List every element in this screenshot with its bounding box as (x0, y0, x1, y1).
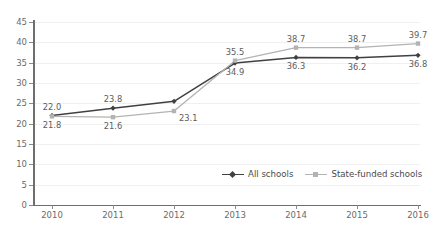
data-point (355, 45, 359, 49)
data-label: 38.7 (281, 34, 311, 44)
data-label: 38.7 (342, 34, 372, 44)
data-label: 22.0 (37, 102, 67, 112)
data-point (111, 115, 115, 119)
data-label: 36.8 (403, 59, 433, 69)
data-point (416, 41, 420, 45)
legend-label-all-schools: All schools (248, 169, 293, 179)
data-label: 21.6 (98, 121, 128, 131)
chart-legend: All schools State-funded schools (222, 169, 422, 179)
data-label: 34.9 (220, 67, 250, 77)
data-label: 36.2 (342, 62, 372, 72)
data-label: 36.3 (281, 61, 311, 71)
data-label: 23.1 (179, 113, 209, 123)
data-point (293, 55, 298, 60)
data-point (50, 114, 54, 118)
data-point (172, 109, 176, 113)
data-label: 35.5 (220, 47, 250, 57)
data-label: 21.8 (37, 120, 67, 130)
legend-marker-diamond-icon (222, 170, 244, 178)
legend-marker-square-icon (305, 170, 327, 178)
data-point (110, 106, 115, 111)
data-point (415, 53, 420, 58)
legend-item-all-schools[interactable]: All schools (222, 169, 293, 179)
data-point (233, 58, 237, 62)
data-label: 23.8 (98, 94, 128, 104)
legend-label-state-funded-schools: State-funded schools (331, 169, 422, 179)
data-label: 39.7 (403, 30, 433, 40)
data-point (354, 55, 359, 60)
legend-item-state-funded-schools[interactable]: State-funded schools (305, 169, 422, 179)
data-point (294, 45, 298, 49)
